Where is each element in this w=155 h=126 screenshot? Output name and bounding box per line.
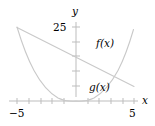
x-tick-label-neg5: −5: [9, 108, 24, 119]
curve-f: [17, 27, 134, 101]
x-tick-label-pos5: 5: [129, 108, 136, 119]
curve-label-f: f(x): [96, 38, 114, 49]
x-axis-label: x: [142, 95, 148, 106]
y-axis-label: y: [72, 6, 78, 17]
function-graph-figure: y x 25 −5 5 f(x) g(x): [0, 0, 155, 126]
curve-label-g: g(x): [89, 82, 110, 93]
y-tick-label-25: 25: [53, 22, 66, 33]
